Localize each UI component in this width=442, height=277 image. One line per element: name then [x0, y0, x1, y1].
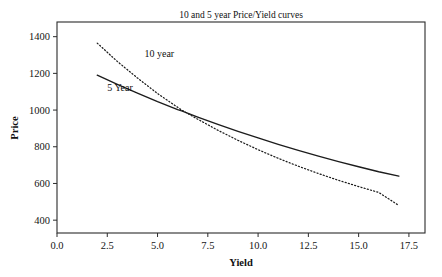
- y-tick-label: 800: [34, 141, 50, 152]
- y-tick-label: 1200: [29, 68, 50, 79]
- x-axis-label: Yield: [229, 257, 253, 268]
- price-yield-chart: 10 and 5 year Price/Yield curves 4006008…: [0, 0, 442, 277]
- x-tick-label: 15.0: [349, 240, 367, 251]
- series-annotations: 10 year5 Year: [107, 48, 175, 93]
- x-tick-label: 17.5: [400, 240, 418, 251]
- series-line-5-year: [97, 75, 399, 176]
- y-axis-label: Price: [9, 116, 20, 140]
- y-tick-label: 600: [34, 178, 50, 189]
- chart-figure: 10 and 5 year Price/Yield curves 4006008…: [0, 0, 442, 277]
- x-tick-label: 2.5: [101, 240, 114, 251]
- x-tick-label: 10.0: [249, 240, 267, 251]
- y-tick-label: 1000: [29, 105, 50, 116]
- series-annotation-label: 10 year: [144, 48, 174, 59]
- y-tick-label: 1400: [29, 31, 50, 42]
- y-tick-label: 400: [34, 215, 50, 226]
- chart-title: 10 and 5 year Price/Yield curves: [179, 10, 303, 20]
- series-line-10-year: [97, 43, 399, 205]
- x-tick-label: 5.0: [151, 240, 164, 251]
- x-axis-ticks: 0.02.55.07.510.012.515.017.5: [50, 233, 418, 251]
- x-tick-label: 0.0: [50, 240, 63, 251]
- y-axis-ticks: 400600800100012001400: [29, 31, 57, 225]
- x-tick-label: 7.5: [201, 240, 214, 251]
- plot-frame: [57, 22, 425, 233]
- x-tick-label: 12.5: [299, 240, 317, 251]
- series-annotation-label: 5 Year: [107, 82, 133, 93]
